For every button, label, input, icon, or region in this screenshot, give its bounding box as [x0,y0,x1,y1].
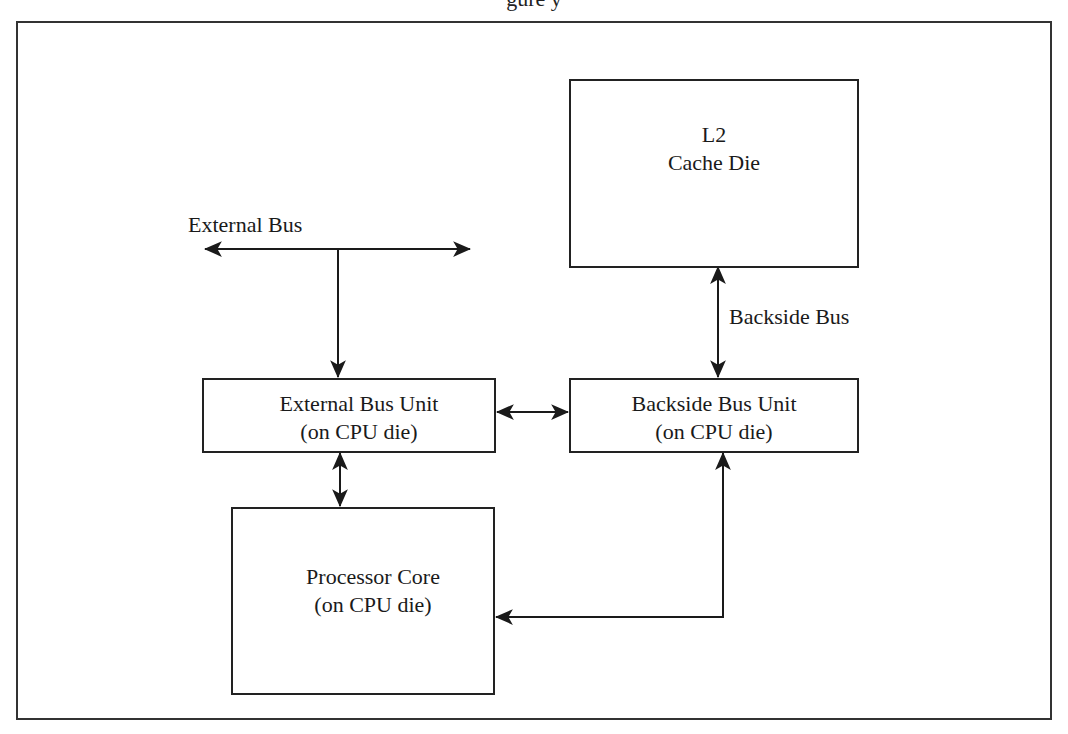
bbu-line2: (on CPU die) [571,418,857,446]
backside-bus-unit-box: Backside Bus Unit (on CPU die) [569,378,859,453]
backside-bus-label: Backside Bus [729,304,849,330]
l2-cache-die-box: L2 Cache Die [569,79,859,268]
connection-lines [0,0,1068,734]
external-bus-unit-box: External Bus Unit (on CPU die) [202,378,496,453]
core-bbu-arrow [496,453,723,617]
bbu-line1: Backside Bus Unit [571,390,857,418]
core-line2: (on CPU die) [253,591,493,619]
l2-cache-line1: L2 [571,121,857,149]
external-bus-label: External Bus [188,212,302,238]
processor-core-box: Processor Core (on CPU die) [231,507,495,695]
l2-cache-line2: Cache Die [571,149,857,177]
core-line1: Processor Core [253,563,493,591]
ebu-line1: External Bus Unit [224,390,494,418]
ebu-line2: (on CPU die) [224,418,494,446]
